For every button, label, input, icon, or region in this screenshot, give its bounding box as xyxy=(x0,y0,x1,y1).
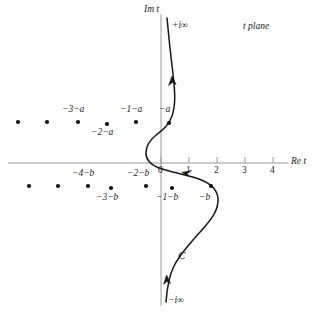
pole-dot xyxy=(27,184,31,188)
tick-label-2: 2 xyxy=(214,165,219,175)
pole-dot xyxy=(76,120,80,124)
t-plane-figure: Im t Re t 0 1 2 3 4 t plane +i∞ −i∞ C −3… xyxy=(0,0,319,321)
pole-label-minus-2-minus-b: −2−b xyxy=(127,169,149,179)
pole-label-minus-2-minus-a: −2−a xyxy=(91,128,113,138)
pole-label-minus-b: −b xyxy=(199,193,210,203)
pole-label-minus-a: −a xyxy=(159,105,170,115)
imaginary-axis-label: Im t xyxy=(144,5,159,15)
pole-dots-upper xyxy=(16,120,171,126)
real-axis-ticks xyxy=(161,157,273,163)
contour-top-endpoint-label: +i∞ xyxy=(172,21,188,31)
pole-label-minus-3-minus-b: −3−b xyxy=(96,193,118,203)
plane-caption-text: t plane xyxy=(243,21,269,31)
pole-label-minus-4-minus-b: −4−b xyxy=(72,169,94,179)
pole-dot xyxy=(170,186,174,190)
tick-label-3: 3 xyxy=(242,165,247,175)
pole-dot xyxy=(144,184,148,188)
tick-label-1: 1 xyxy=(186,165,191,175)
pole-dot xyxy=(209,184,213,188)
imaginary-axis-label-text: Im t xyxy=(144,4,159,14)
pole-dot xyxy=(45,120,49,124)
pole-label-minus-1-minus-a: −1−a xyxy=(120,105,142,115)
contour-name-label: C xyxy=(178,250,185,261)
tick-label-4: 4 xyxy=(270,165,275,175)
pole-dot xyxy=(56,184,60,188)
pole-dot xyxy=(16,120,20,124)
figure-canvas xyxy=(0,0,319,321)
plane-caption: t plane xyxy=(243,22,269,32)
real-axis-label-text: Re t xyxy=(291,156,306,166)
pole-label-minus-1-minus-b: −1−b xyxy=(156,193,178,203)
pole-dot xyxy=(105,122,109,126)
pole-dots-lower xyxy=(27,184,213,190)
pole-label-minus-3-minus-a: −3−a xyxy=(62,105,84,115)
pole-dot xyxy=(109,186,113,190)
contour-arrow-upper-icon xyxy=(169,76,177,86)
real-axis-label: Re t xyxy=(291,157,306,167)
pole-dot xyxy=(134,120,138,124)
pole-dot xyxy=(167,121,171,125)
tick-label-0: 0 xyxy=(158,165,163,175)
pole-dot xyxy=(86,184,90,188)
contour-bottom-endpoint-label: −i∞ xyxy=(168,296,184,306)
